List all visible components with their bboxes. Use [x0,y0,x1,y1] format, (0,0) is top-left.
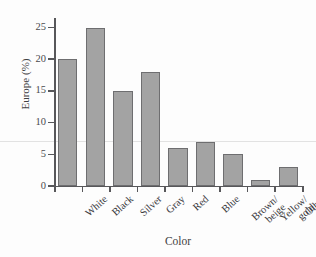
x-tick-2 [109,186,111,192]
x-tick-6 [219,186,221,192]
x-tick-9 [302,186,304,192]
category-label-silver: Silver [138,194,164,219]
category-label-black: Black [111,194,136,218]
y-tick-10 [48,122,54,124]
x-tick-0 [54,186,56,192]
category-label-line: Red [191,193,211,212]
x-tick-5 [192,186,194,192]
category-label-line: Silver [138,193,164,218]
bar-other [279,167,298,186]
bar-white [58,59,77,186]
category-label-line: Black [110,193,136,218]
y-axis-line [54,18,56,186]
category-label-red: Red [191,194,211,213]
x-tick-1 [82,186,84,192]
category-label-white: White [83,194,109,219]
y-tick-20 [48,58,54,60]
x-tick-3 [137,186,139,192]
bar-gray [141,72,160,186]
y-axis-title: Europe (%) [19,29,31,139]
y-tick-15 [48,90,54,92]
bar-blue [196,142,215,186]
category-label-line: Blue [219,193,241,214]
y-tick-25 [48,27,54,29]
x-axis-title: Color [54,235,302,247]
bar-chart-figure: 0510152025 WhiteBlackSilverGrayRedBlueBr… [0,0,316,257]
bar-yellow-gold [251,180,270,186]
y-tick-label-5: 5 [0,149,46,160]
bar-brown-beige [223,154,242,186]
category-label-blue: Blue [220,194,242,215]
bar-silver [113,91,132,186]
y-tick-label-0: 0 [0,181,46,192]
x-tick-4 [164,186,166,192]
category-label-line: Gray [164,193,187,215]
bar-black [86,28,105,186]
x-tick-8 [274,186,276,192]
category-label-line: White [83,193,109,218]
category-label-gray: Gray [165,194,188,216]
bar-red [168,148,187,186]
y-tick-5 [48,154,54,156]
x-tick-7 [247,186,249,192]
